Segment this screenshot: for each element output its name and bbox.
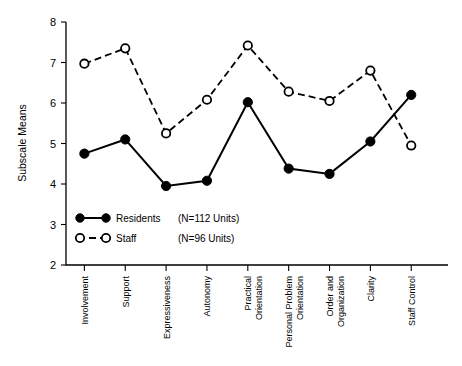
y-axis-title: Subscale Means	[16, 104, 28, 182]
chart-legend: Residents (N=112 Units) Staff (N=96 Unit…	[76, 213, 239, 244]
x-axis-category-label: Orientation	[254, 276, 264, 320]
legend-staff-marker-right	[102, 234, 110, 242]
residents-data-points	[80, 90, 416, 190]
legend-staff-marker-left	[76, 234, 84, 242]
data-point	[80, 149, 89, 158]
data-point	[202, 176, 211, 185]
staff-data-points	[80, 41, 415, 149]
legend-entry-residents: Residents (N=112 Units)	[76, 213, 239, 224]
data-point	[243, 98, 252, 107]
legend-entry-staff: Staff (N=96 Units)	[76, 233, 235, 244]
data-point	[80, 60, 88, 68]
residents-series-line	[84, 95, 411, 186]
x-axis-category-label: Autonomy	[202, 276, 212, 317]
data-point	[366, 66, 374, 74]
y-axis-tick-label: 5	[50, 138, 56, 150]
data-point	[203, 96, 211, 104]
data-point	[407, 141, 415, 149]
line-chart-svg: 8765432 Subscale Means InvolvementSuppor…	[0, 0, 462, 366]
data-point	[325, 169, 334, 178]
staff-series-line	[84, 45, 411, 145]
x-axis-category-label: Orientation	[295, 276, 305, 320]
y-axis-tick-label: 2	[50, 259, 56, 271]
legend-residents-marker-right	[102, 214, 110, 222]
data-point	[407, 90, 416, 99]
x-axis-category-label: Involvement	[80, 276, 90, 325]
x-axis-category-label: Staff Control	[407, 276, 417, 326]
legend-staff-label: Staff	[116, 233, 137, 244]
x-axis-category-label: Clarity	[366, 276, 376, 302]
y-axis-tick-label: 6	[50, 97, 56, 109]
legend-staff-n: (N=96 Units)	[178, 233, 234, 244]
data-point	[121, 44, 129, 52]
data-point	[161, 181, 170, 190]
x-axis-category-label: Order and	[325, 276, 335, 317]
data-point	[284, 87, 292, 95]
x-axis-category-label: Expressiveness	[162, 276, 172, 340]
x-axis-category-label: Organization	[336, 276, 346, 327]
series-group	[80, 41, 416, 190]
legend-residents-marker-left	[76, 214, 84, 222]
data-point	[366, 137, 375, 146]
x-axis-category-labels: InvolvementSupportExpressivenessAutonomy…	[80, 276, 417, 348]
y-axis-ticks	[61, 22, 66, 265]
data-point	[121, 135, 130, 144]
y-axis-tick-label: 3	[50, 219, 56, 231]
x-axis-category-label: Support	[121, 276, 131, 308]
data-point	[325, 97, 333, 105]
legend-residents-label: Residents	[116, 213, 160, 224]
y-axis-tick-label: 7	[50, 57, 56, 69]
y-axis-tick-label: 4	[50, 178, 56, 190]
data-point	[244, 41, 252, 49]
y-axis-tick-labels: 8765432	[50, 16, 56, 271]
x-axis-category-label: Practical	[243, 276, 253, 311]
x-axis-category-label: Personal Problem	[284, 276, 294, 348]
data-point	[162, 129, 170, 137]
y-axis-tick-label: 8	[50, 16, 56, 28]
legend-residents-n: (N=112 Units)	[178, 213, 239, 224]
x-axis-ticks	[84, 265, 411, 271]
chart-figure: 8765432 Subscale Means InvolvementSuppor…	[0, 0, 462, 366]
data-point	[284, 164, 293, 173]
